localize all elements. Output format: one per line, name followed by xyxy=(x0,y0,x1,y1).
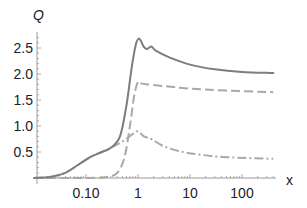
y-tick-label: 1.5 xyxy=(14,92,34,108)
y-tick-label: 2.0 xyxy=(14,66,34,82)
y-axis-label: Q xyxy=(33,7,44,23)
x-tick-label: 100 xyxy=(230,185,254,201)
x-tick-label: 10 xyxy=(182,185,198,201)
series-dashed-line xyxy=(34,81,273,178)
y-tick-label: 2.5 xyxy=(14,40,34,56)
y-tick-label: 1.0 xyxy=(14,118,34,134)
plot-area xyxy=(34,39,273,179)
line-chart: 0.51.01.52.02.50.10110100 Q x xyxy=(0,0,307,208)
x-tick-label: 0.10 xyxy=(72,185,99,201)
chart-canvas: 0.51.01.52.02.50.10110100 Q x xyxy=(0,0,307,208)
x-axis-label: x xyxy=(286,172,293,188)
y-tick-label: 0.5 xyxy=(14,144,34,160)
x-tick-label: 1 xyxy=(134,185,142,201)
